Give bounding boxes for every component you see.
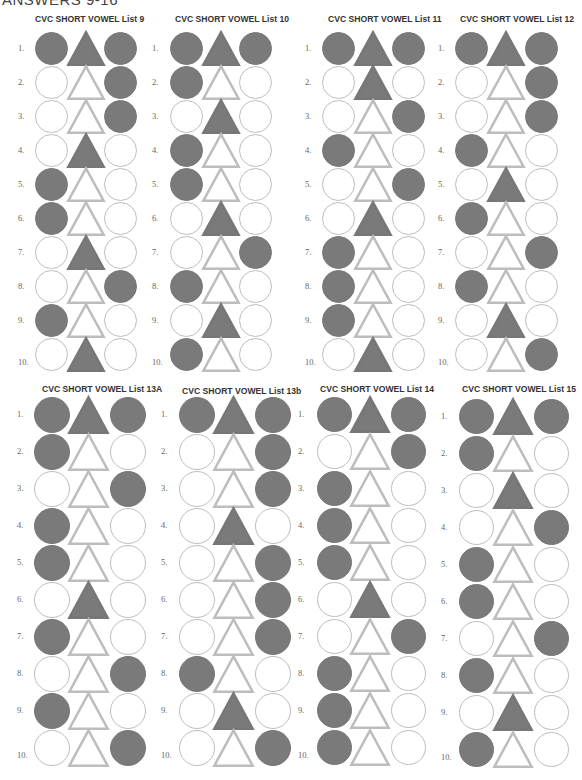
empty-circle-icon bbox=[239, 100, 272, 133]
filled-circle-icon bbox=[255, 730, 291, 766]
empty-circle-icon bbox=[179, 730, 215, 766]
empty-circle-icon bbox=[525, 134, 558, 167]
row-number: 4. bbox=[152, 145, 158, 155]
row-number: 3. bbox=[161, 483, 167, 493]
row-number: 7. bbox=[438, 247, 444, 257]
empty-triangle-icon bbox=[488, 66, 524, 99]
filled-triangle-icon bbox=[351, 397, 389, 432]
empty-circle-icon bbox=[322, 100, 355, 133]
filled-circle-icon bbox=[35, 304, 68, 337]
row-number: 6. bbox=[438, 213, 444, 223]
empty-circle-icon bbox=[391, 582, 426, 617]
row-number: 7. bbox=[152, 247, 158, 257]
filled-circle-icon bbox=[110, 730, 146, 766]
filled-triangle-icon bbox=[355, 202, 391, 235]
filled-triangle-icon bbox=[203, 304, 239, 337]
empty-circle-icon bbox=[459, 473, 494, 508]
empty-circle-icon bbox=[534, 584, 569, 619]
panel-title: CVC SHORT VOWEL List 15 bbox=[462, 384, 576, 394]
row-number: 3. bbox=[305, 111, 311, 121]
filled-circle-icon bbox=[239, 32, 272, 65]
panel-title: CVC SHORT VOWEL List 10 bbox=[175, 14, 289, 24]
row-number: 5. bbox=[18, 179, 24, 189]
row-number: 3. bbox=[17, 483, 23, 493]
filled-triangle-icon bbox=[351, 582, 389, 617]
filled-circle-icon bbox=[35, 202, 68, 235]
filled-circle-icon bbox=[170, 32, 203, 65]
row-number: 4. bbox=[438, 145, 444, 155]
empty-circle-icon bbox=[455, 100, 488, 133]
empty-circle-icon bbox=[179, 693, 215, 729]
empty-triangle-icon bbox=[69, 471, 108, 507]
row-number: 2. bbox=[152, 77, 158, 87]
empty-circle-icon bbox=[455, 304, 488, 337]
filled-circle-icon bbox=[525, 338, 558, 371]
filled-triangle-icon bbox=[203, 100, 239, 133]
filled-triangle-icon bbox=[355, 32, 391, 65]
empty-circle-icon bbox=[391, 471, 426, 506]
empty-triangle-icon bbox=[69, 693, 108, 729]
row-number: 3. bbox=[298, 483, 304, 493]
empty-circle-icon bbox=[455, 168, 488, 201]
row-number: 4. bbox=[441, 522, 447, 532]
row-number: 8. bbox=[305, 281, 311, 291]
row-number: 5. bbox=[441, 559, 447, 569]
filled-circle-icon bbox=[255, 434, 291, 470]
empty-circle-icon bbox=[391, 656, 426, 691]
filled-circle-icon bbox=[455, 32, 488, 65]
empty-circle-icon bbox=[104, 236, 137, 269]
empty-triangle-icon bbox=[69, 545, 108, 581]
filled-circle-icon bbox=[455, 202, 488, 235]
filled-triangle-icon bbox=[355, 66, 391, 99]
filled-circle-icon bbox=[525, 32, 558, 65]
filled-triangle-icon bbox=[214, 508, 253, 544]
empty-circle-icon bbox=[459, 621, 494, 656]
panel-title: CVC SHORT VOWEL List 13b bbox=[182, 386, 301, 396]
filled-circle-icon bbox=[317, 656, 352, 691]
filled-circle-icon bbox=[34, 434, 70, 470]
empty-triangle-icon bbox=[488, 338, 524, 371]
filled-circle-icon bbox=[317, 693, 352, 728]
empty-triangle-icon bbox=[69, 434, 108, 470]
filled-circle-icon bbox=[317, 508, 352, 543]
filled-circle-icon bbox=[459, 732, 494, 767]
filled-triangle-icon bbox=[69, 582, 108, 618]
empty-circle-icon bbox=[34, 582, 70, 618]
empty-circle-icon bbox=[104, 168, 137, 201]
empty-triangle-icon bbox=[214, 434, 253, 470]
filled-circle-icon bbox=[170, 66, 203, 99]
row-number: 8. bbox=[152, 281, 158, 291]
empty-circle-icon bbox=[110, 582, 146, 618]
filled-triangle-icon bbox=[494, 695, 532, 730]
empty-circle-icon bbox=[170, 304, 203, 337]
empty-circle-icon bbox=[392, 236, 425, 269]
row-number: 10. bbox=[161, 750, 172, 760]
empty-circle-icon bbox=[110, 545, 146, 581]
filled-circle-icon bbox=[317, 397, 352, 432]
empty-circle-icon bbox=[179, 545, 215, 581]
row-number: 9. bbox=[152, 315, 158, 325]
empty-circle-icon bbox=[322, 338, 355, 371]
row-number: 8. bbox=[441, 670, 447, 680]
filled-circle-icon bbox=[255, 471, 291, 507]
empty-circle-icon bbox=[391, 508, 426, 543]
empty-circle-icon bbox=[534, 473, 569, 508]
row-number: 6. bbox=[18, 213, 24, 223]
filled-circle-icon bbox=[255, 619, 291, 655]
filled-circle-icon bbox=[392, 32, 425, 65]
empty-triangle-icon bbox=[351, 693, 389, 728]
empty-triangle-icon bbox=[355, 304, 391, 337]
row-number: 8. bbox=[18, 281, 24, 291]
empty-circle-icon bbox=[104, 304, 137, 337]
empty-triangle-icon bbox=[69, 619, 108, 655]
empty-triangle-icon bbox=[351, 656, 389, 691]
filled-circle-icon bbox=[317, 545, 352, 580]
empty-triangle-icon bbox=[214, 656, 253, 692]
empty-triangle-icon bbox=[203, 168, 239, 201]
row-number: 7. bbox=[17, 631, 23, 641]
filled-circle-icon bbox=[104, 100, 137, 133]
empty-triangle-icon bbox=[351, 730, 389, 765]
filled-circle-icon bbox=[459, 436, 494, 471]
empty-triangle-icon bbox=[203, 236, 239, 269]
row-number: 3. bbox=[438, 111, 444, 121]
